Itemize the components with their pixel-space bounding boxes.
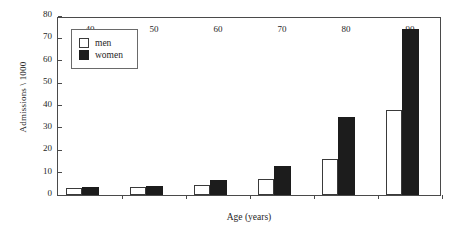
legend-item-women: women: [79, 50, 123, 60]
y-tick-mark: [58, 60, 62, 61]
legend-label-men: men: [95, 38, 111, 48]
y-tick-mark: [58, 83, 62, 84]
y-tick-mark: [58, 38, 62, 39]
x-tick-label-80: 80: [342, 24, 351, 34]
y-axis-title: Admissions \ 1000: [18, 12, 28, 182]
filled-square-icon: [79, 50, 89, 60]
bar-chart-figure: Admissions \ 1000 01020304050607080 4050…: [0, 0, 454, 241]
legend-item-men: men: [79, 38, 123, 48]
bar-men-90: [386, 110, 402, 195]
y-tick-mark: [58, 195, 62, 196]
bar-men-50: [130, 187, 146, 195]
y-tick-label: 50: [43, 76, 52, 86]
y-tick-mark: [58, 105, 62, 106]
x-tick-mark: [378, 195, 379, 199]
x-tick-mark: [186, 195, 187, 199]
bar-women-80: [338, 117, 354, 195]
plot-area: 01020304050607080 405060708090 men women: [57, 17, 441, 196]
y-tick-label: 60: [43, 54, 52, 64]
bar-men-40: [66, 188, 82, 195]
x-tick-label-60: 60: [214, 24, 223, 34]
y-tick-mark: [58, 172, 62, 173]
open-square-icon: [79, 38, 89, 48]
bar-women-60: [210, 180, 226, 195]
bar-men-70: [258, 179, 274, 195]
chart-legend: men women: [71, 29, 138, 69]
x-tick-mark: [314, 195, 315, 199]
bar-women-40: [82, 187, 98, 195]
x-tick-mark: [250, 195, 251, 199]
y-tick-label: 80: [43, 9, 52, 19]
y-tick-label: 70: [43, 31, 52, 41]
y-tick-label: 0: [48, 188, 53, 198]
bar-women-70: [274, 166, 290, 195]
y-tick-label: 30: [43, 121, 52, 131]
legend-label-women: women: [95, 50, 123, 60]
x-tick-label-70: 70: [278, 24, 287, 34]
bar-women-90: [402, 29, 418, 195]
bar-men-60: [194, 185, 210, 195]
y-tick-mark: [58, 127, 62, 128]
x-tick-mark: [122, 195, 123, 199]
x-tick-label-50: 50: [150, 24, 159, 34]
x-axis-title: Age (years): [57, 212, 441, 222]
y-tick-mark: [58, 150, 62, 151]
y-tick-label: 40: [43, 99, 52, 109]
y-tick-label: 10: [43, 166, 52, 176]
y-tick-label: 20: [43, 143, 52, 153]
y-tick-mark: [58, 16, 62, 17]
bar-men-80: [322, 159, 338, 195]
x-tick-mark: [442, 195, 443, 199]
bar-women-50: [146, 186, 162, 195]
